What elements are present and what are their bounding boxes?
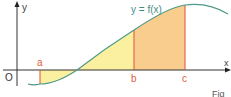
label-a: a xyxy=(37,57,43,68)
x-axis-arrow-icon xyxy=(225,68,231,73)
region-a-to-b xyxy=(40,30,134,84)
axis-y-label: y xyxy=(22,2,27,13)
label-c: c xyxy=(182,73,187,84)
figure-caption: Fig xyxy=(212,89,225,97)
axis-x-label: x xyxy=(224,58,229,68)
curve-label: y = f(x) xyxy=(131,4,162,15)
label-b: b xyxy=(131,73,137,84)
area-under-curve-diagram: y x O y = f(x) a b c Fig xyxy=(0,0,231,97)
origin-label: O xyxy=(5,72,13,83)
y-axis-arrow-icon xyxy=(15,1,20,7)
